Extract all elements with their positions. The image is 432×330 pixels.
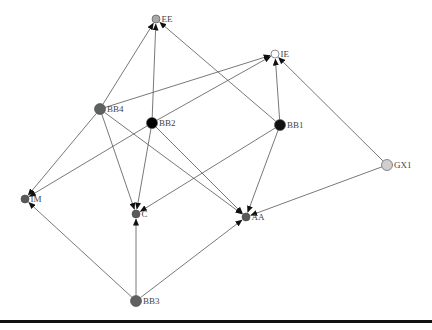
node-label: BB2 bbox=[159, 118, 176, 128]
node-aa: AA bbox=[242, 212, 265, 222]
edge-gx1-to-ie bbox=[279, 58, 384, 162]
node-circle-icon bbox=[21, 195, 29, 203]
node-label: IE bbox=[281, 49, 290, 59]
edge-bb1-to-ee bbox=[160, 22, 276, 121]
node-c: C bbox=[132, 209, 148, 219]
node-circle-icon bbox=[152, 15, 160, 23]
node-ee: EE bbox=[152, 14, 173, 24]
edge-bb4-to-ee bbox=[103, 23, 153, 104]
node-circle-icon bbox=[132, 210, 140, 218]
edge-bb4-to-im bbox=[28, 113, 96, 195]
bottom-rule bbox=[0, 320, 432, 323]
nodes-layer: EEIEBB4BB2BB1GX1IMCAABB3 bbox=[21, 14, 412, 307]
node-label: GX1 bbox=[394, 160, 412, 170]
node-bb3: BB3 bbox=[131, 296, 161, 307]
edge-bb2-to-ee bbox=[152, 24, 156, 118]
edge-bb4-to-ie bbox=[105, 56, 270, 108]
edge-bb2-to-im bbox=[29, 126, 147, 197]
node-label: IM bbox=[31, 194, 42, 204]
node-im: IM bbox=[21, 194, 42, 204]
node-gx1: GX1 bbox=[382, 160, 412, 171]
edge-bb1-to-ie bbox=[275, 59, 279, 120]
node-circle-icon bbox=[131, 296, 142, 307]
edge-bb3-to-aa bbox=[140, 220, 242, 298]
node-label: BB3 bbox=[143, 296, 160, 306]
node-circle-icon bbox=[275, 120, 286, 131]
edge-bb2-to-aa bbox=[156, 127, 243, 214]
node-label: EE bbox=[162, 14, 173, 24]
node-bb4: BB4 bbox=[95, 104, 125, 115]
edge-bb2-to-ie bbox=[157, 56, 271, 120]
node-circle-icon bbox=[242, 213, 250, 221]
edge-bb2-to-c bbox=[137, 128, 151, 209]
node-ie: IE bbox=[271, 49, 289, 59]
node-bb1: BB1 bbox=[275, 120, 304, 131]
graph-canvas: EEIEBB4BB2BB1GX1IMCAABB3 bbox=[0, 0, 432, 330]
node-label: AA bbox=[252, 212, 265, 222]
node-circle-icon bbox=[95, 104, 106, 115]
node-bb2: BB2 bbox=[147, 118, 176, 129]
edge-gx1-to-aa bbox=[251, 167, 382, 215]
edges-layer bbox=[28, 22, 383, 298]
node-circle-icon bbox=[147, 118, 158, 129]
edge-bb3-to-im bbox=[29, 202, 132, 297]
node-circle-icon bbox=[382, 160, 393, 171]
node-label: BB4 bbox=[107, 104, 124, 114]
edge-bb1-to-c bbox=[140, 128, 275, 211]
node-circle-icon bbox=[271, 50, 279, 58]
node-label: BB1 bbox=[287, 120, 304, 130]
node-label: C bbox=[142, 209, 148, 219]
edge-bb4-to-c bbox=[102, 114, 135, 209]
